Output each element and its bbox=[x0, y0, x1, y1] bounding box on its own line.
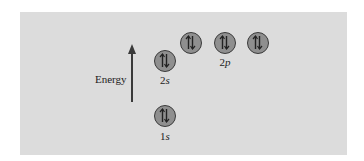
electron-pair-icon bbox=[215, 33, 234, 52]
orbital-2p-2 bbox=[214, 32, 236, 54]
electron-pair-icon bbox=[248, 33, 267, 52]
label-1s: 1s bbox=[160, 130, 170, 142]
energy-arrow-icon bbox=[127, 44, 137, 104]
electron-pair-icon bbox=[155, 106, 174, 125]
electron-pair-icon bbox=[155, 51, 174, 70]
orbital-2s bbox=[154, 50, 176, 72]
electron-pair-icon bbox=[181, 33, 200, 52]
orbital-2p-3 bbox=[247, 32, 269, 54]
orbital-2p-1 bbox=[180, 32, 202, 54]
label-2p: 2p bbox=[220, 56, 231, 68]
orbital-1s bbox=[154, 105, 176, 127]
energy-axis-label: Energy bbox=[95, 73, 127, 85]
label-2s: 2s bbox=[160, 74, 170, 86]
